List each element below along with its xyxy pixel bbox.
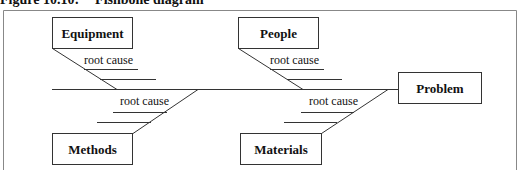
cause-label: root cause [120, 94, 169, 108]
category-equipment: Equipment root cause [53, 18, 157, 90]
category-methods: Methods root cause [53, 90, 199, 165]
category-label: Equipment [61, 26, 124, 41]
category-label: People [260, 26, 297, 41]
effect-label: Problem [416, 81, 464, 96]
category-materials: Materials root cause [241, 90, 389, 165]
cause-label: root cause [270, 53, 319, 67]
cause-label: root cause [309, 94, 358, 108]
fishbone-diagram: Equipment root cause People root cause M… [0, 0, 531, 170]
cause-label: root cause [84, 53, 133, 67]
effect-problem: Problem [399, 73, 482, 104]
category-label: Materials [254, 142, 307, 157]
category-people: People root cause [239, 18, 343, 90]
category-label: Methods [68, 142, 116, 157]
